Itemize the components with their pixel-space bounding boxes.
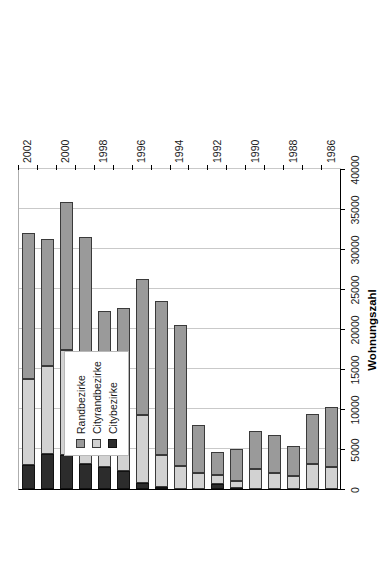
bar-segment[interactable] (192, 425, 205, 473)
bar-segment[interactable] (22, 465, 35, 489)
bar-segment[interactable] (79, 464, 92, 489)
bar-segment[interactable] (306, 414, 319, 464)
bar-group[interactable] (136, 169, 149, 489)
value-tick (340, 289, 345, 290)
chart-legend: Randbezirke Cityrandbezirke Citybezirke (64, 351, 129, 456)
bar-group[interactable] (174, 169, 187, 489)
category-tick-label: 2002 (21, 140, 33, 163)
bar-segment[interactable] (268, 473, 281, 489)
bar-segment[interactable] (41, 366, 54, 454)
bar-segment[interactable] (155, 301, 168, 455)
bar-group[interactable] (268, 169, 281, 489)
bar-group[interactable] (211, 169, 224, 489)
category-tick-label: 1998 (97, 140, 109, 163)
category-tick (113, 165, 114, 170)
bar-segment[interactable] (136, 483, 149, 489)
category-tick (188, 165, 189, 170)
value-tick (340, 249, 345, 250)
value-tick-label: 40000 (349, 140, 361, 200)
category-tick-label: 1988 (287, 140, 299, 163)
bar-segment[interactable] (249, 469, 262, 489)
category-tick-label: 1994 (173, 140, 185, 163)
bar-segment[interactable] (60, 202, 73, 350)
value-tick (340, 449, 345, 450)
bar-segment[interactable] (22, 233, 35, 379)
category-tick (151, 165, 152, 170)
legend-label-cityrandbezirke: Cityrandbezirke (91, 361, 103, 434)
bar-group[interactable] (249, 169, 262, 489)
category-tick (170, 165, 171, 170)
category-tick (56, 165, 57, 170)
swatch-randbezirke-icon (76, 439, 85, 448)
bar-group[interactable] (192, 169, 205, 489)
bar-segment[interactable] (117, 471, 130, 489)
bar-group[interactable] (155, 169, 168, 489)
category-tick (37, 165, 38, 170)
bar-group[interactable] (230, 169, 243, 489)
bar-segment[interactable] (192, 473, 205, 489)
bar-segment[interactable] (287, 446, 300, 476)
category-tick (283, 165, 284, 170)
bar-group[interactable] (22, 169, 35, 489)
bar-segment[interactable] (41, 239, 54, 366)
legend-item-cityrandbezirke[interactable]: Cityrandbezirke (89, 361, 104, 448)
category-tick-label: 1992 (211, 140, 223, 163)
category-tick (264, 165, 265, 170)
bar-segment[interactable] (174, 466, 187, 489)
bar-group[interactable] (41, 169, 54, 489)
bar-segment[interactable] (155, 455, 168, 487)
value-tick (340, 209, 345, 210)
category-tick (132, 165, 133, 170)
bar-segment[interactable] (98, 467, 111, 489)
swatch-cityrandbezirke-icon (92, 439, 101, 448)
category-tick (75, 165, 76, 170)
value-tick (340, 329, 345, 330)
bar-segment[interactable] (22, 379, 35, 465)
bar-segment[interactable] (325, 467, 338, 489)
rotated-chart-wrapper: 0500010000150002000025000300003500040000… (0, 0, 390, 562)
value-tick (340, 409, 345, 410)
category-tick (321, 165, 322, 170)
bar-segment[interactable] (249, 431, 262, 469)
value-axis-title: Wohnungszahl (366, 170, 378, 490)
bar-segment[interactable] (174, 325, 187, 466)
category-tick (207, 165, 208, 170)
category-tick (302, 165, 303, 170)
category-tick (245, 165, 246, 170)
bar-segment[interactable] (287, 476, 300, 489)
bar-group[interactable] (306, 169, 319, 489)
bar-segment[interactable] (60, 455, 73, 489)
bar-segment[interactable] (211, 475, 224, 485)
bar-segment[interactable] (41, 454, 54, 489)
legend-item-randbezirke[interactable]: Randbezirke (73, 361, 88, 448)
swatch-citybezirke-icon (108, 439, 117, 448)
chart-area: 0500010000150002000025000300003500040000… (0, 0, 390, 562)
bar-segment[interactable] (230, 449, 243, 481)
value-tick (340, 369, 345, 370)
bar-group[interactable] (287, 169, 300, 489)
legend-item-citybezirke[interactable]: Citybezirke (105, 361, 120, 448)
bar-segment[interactable] (325, 407, 338, 467)
category-tick-label: 1996 (135, 140, 147, 163)
bar-segment[interactable] (211, 484, 224, 489)
legend-label-randbezirke: Randbezirke (75, 375, 87, 434)
bar-group[interactable] (325, 169, 338, 489)
category-tick (18, 165, 19, 170)
category-tick (226, 165, 227, 170)
bar-segment[interactable] (136, 415, 149, 483)
category-tick-label: 1990 (249, 140, 261, 163)
category-tick-label: 1986 (325, 140, 337, 163)
chart-page: 0500010000150002000025000300003500040000… (0, 0, 390, 562)
bar-segment[interactable] (306, 464, 319, 489)
bar-segment[interactable] (230, 481, 243, 488)
bar-segment[interactable] (211, 452, 224, 474)
category-tick-label: 2000 (59, 140, 71, 163)
category-tick (94, 165, 95, 170)
bar-segment[interactable] (136, 279, 149, 415)
bar-segment[interactable] (268, 435, 281, 473)
value-tick (340, 489, 345, 490)
legend-label-citybezirke: Citybezirke (107, 382, 119, 434)
value-tick (340, 169, 345, 170)
